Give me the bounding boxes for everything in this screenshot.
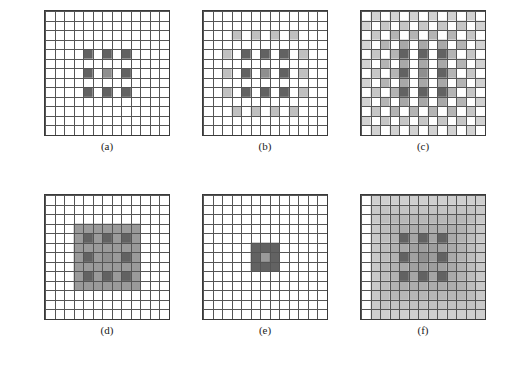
grid-canvas-b	[203, 11, 327, 135]
panel-caption-d: (d)	[44, 324, 170, 336]
panel-caption-e: (e)	[202, 324, 328, 336]
grid-canvas-d	[45, 195, 169, 319]
grid-b	[202, 10, 328, 136]
panel-b: (b)	[202, 10, 328, 136]
panel-f: (f)	[360, 194, 486, 320]
grid-e	[202, 194, 328, 320]
grid-canvas-a	[45, 11, 169, 135]
grid-canvas-e	[203, 195, 327, 319]
panel-a: (a)	[44, 10, 170, 136]
grid-a	[44, 10, 170, 136]
figure-root: (a) (b) (c) (d) (e) (f)	[0, 0, 530, 377]
panel-e: (e)	[202, 194, 328, 320]
panel-caption-a: (a)	[44, 140, 170, 152]
panel-caption-c: (c)	[360, 140, 486, 152]
panel-caption-b: (b)	[202, 140, 328, 152]
grid-d	[44, 194, 170, 320]
grid-canvas-c	[361, 11, 485, 135]
panel-d: (d)	[44, 194, 170, 320]
grid-f	[360, 194, 486, 320]
grid-c	[360, 10, 486, 136]
grid-canvas-f	[361, 195, 485, 319]
panel-c: (c)	[360, 10, 486, 136]
panel-caption-f: (f)	[360, 324, 486, 336]
